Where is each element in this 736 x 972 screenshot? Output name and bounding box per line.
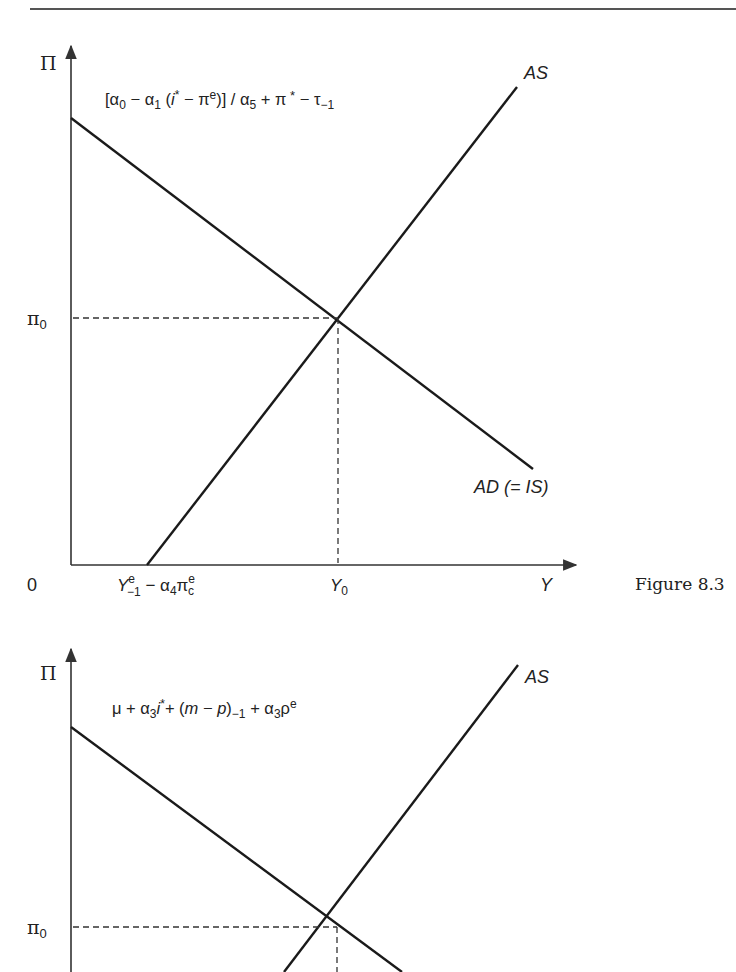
ad-label: AD (= IS) (473, 477, 549, 497)
figure-canvas: Π [α0 − α1 (i* − πe)] / α5 + π * − τ−1 A… (0, 0, 736, 972)
origin-label: 0 (27, 575, 37, 595)
x-axis-label: Y (540, 575, 554, 595)
ad-curve-2 (71, 727, 402, 972)
ad-curve (71, 118, 533, 469)
pi0-label-2: π0 (27, 916, 47, 941)
as-intercept-label: Ye−1 − α4πec (117, 572, 195, 599)
y-axis-label-2: Π (40, 662, 57, 684)
as-label: AS (523, 63, 548, 83)
y0-label: Y0 (330, 576, 348, 598)
as-label-2: AS (524, 667, 549, 687)
figure-caption: Figure 8.3 (635, 574, 725, 594)
pi0-label: π0 (27, 307, 47, 332)
ad-intercept-formula: [α0 − α1 (i* − πe)] / α5 + π * − τ−1 (105, 88, 334, 112)
as-curve (147, 87, 517, 565)
figure-bottom-chart: Π μ + α3i*+ (m − p)−1 + α3ρe AS π0 (27, 649, 549, 972)
as-curve-2 (284, 665, 518, 972)
lm-intercept-formula: μ + α3i*+ (m − p)−1 + α3ρe (112, 697, 297, 721)
y-axis-label: Π (40, 52, 57, 74)
figure-8-3-top-chart: Π [α0 − α1 (i* − πe)] / α5 + π * − τ−1 A… (27, 46, 576, 599)
